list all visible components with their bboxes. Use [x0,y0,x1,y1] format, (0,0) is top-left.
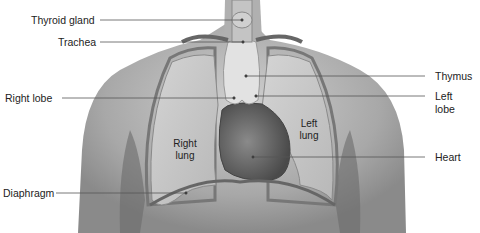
label-thymus: Thymus [435,70,472,82]
label-thyroid-gland: Thyroid gland [31,14,95,26]
thymus-shape [223,39,259,104]
label-trachea: Trachea [58,36,96,48]
label-left-lobe-line2: lobe [435,103,455,115]
thymus-anatomy-diagram: Thyroid gland Trachea Right lobe Diaphra… [0,0,480,233]
label-left-lobe-line1: Left [435,90,453,102]
label-right-lung-line1: Right [165,138,205,149]
label-right-lung-line2: lung [165,150,205,161]
label-left-lung-line2: lung [289,130,329,141]
label-right-lobe: Right lobe [5,92,52,104]
label-left-lung-line1: Left [289,118,329,129]
anatomy-illustration [0,0,480,233]
label-heart: Heart [435,151,461,163]
label-diaphragm: Diaphragm [3,187,54,199]
